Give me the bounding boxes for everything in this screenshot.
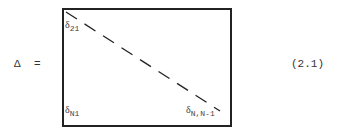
element-delta-21: δ21 [65,19,79,33]
delta-symbol: Δ [14,58,21,70]
equals-sign: = [34,58,41,70]
element-delta-n-n-1: δN,N-1 [186,104,215,118]
equation-number: (2.1) [291,58,324,70]
element-delta-n1: δN1 [65,104,79,118]
